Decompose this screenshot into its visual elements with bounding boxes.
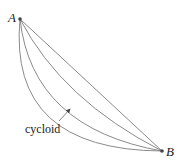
cycloid-arrow xyxy=(59,109,70,121)
label-a: A xyxy=(7,10,16,25)
label-b: B xyxy=(166,144,174,159)
cycloid-label: cycloid xyxy=(25,122,60,136)
point-a xyxy=(18,17,22,21)
point-b xyxy=(160,149,164,153)
brachistochrone-diagram: A B cycloid xyxy=(0,0,185,168)
